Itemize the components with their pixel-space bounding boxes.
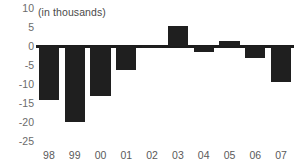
x-tick-label: 98 <box>43 149 55 161</box>
x-tick-label: 07 <box>275 149 287 161</box>
y-tick-label: 0 <box>0 41 34 51</box>
x-tick-label: 06 <box>249 149 261 161</box>
y-tick-label: -15 <box>0 98 34 108</box>
x-tick-label: 02 <box>146 149 158 161</box>
x-tick-label: 04 <box>198 149 210 161</box>
x-axis: 98990001020304050607 <box>36 145 294 167</box>
x-tick-label: 99 <box>69 149 81 161</box>
x-tick-label: 01 <box>120 149 132 161</box>
bar-02 <box>142 46 162 48</box>
y-axis: 1050-5-10-15-20-25 <box>0 0 34 167</box>
bar-01 <box>116 46 136 70</box>
bar-03 <box>168 26 188 46</box>
x-tick-label: 00 <box>95 149 107 161</box>
y-tick-label: -10 <box>0 79 34 89</box>
bar-99 <box>65 46 85 122</box>
bar-98 <box>39 46 59 100</box>
y-tick-label: -5 <box>0 60 34 70</box>
bar-04 <box>194 46 214 52</box>
y-tick-label: 10 <box>0 3 34 13</box>
y-tick-label: 5 <box>0 22 34 32</box>
y-tick-label: -25 <box>0 136 34 146</box>
bar-chart: (in thousands) 1050-5-10-15-20-25 989900… <box>0 0 294 167</box>
x-tick-label: 03 <box>172 149 184 161</box>
plot-area <box>36 0 294 145</box>
bar-00 <box>90 46 110 96</box>
bar-05 <box>219 41 239 46</box>
x-tick-label: 05 <box>224 149 236 161</box>
bar-07 <box>271 46 291 82</box>
y-tick-label: -20 <box>0 117 34 127</box>
bar-06 <box>245 46 265 58</box>
